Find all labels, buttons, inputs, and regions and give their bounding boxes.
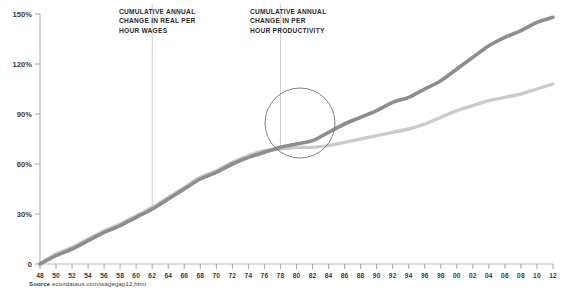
source-value: econdataus.com/wagegap12.html <box>52 281 146 287</box>
x-axis-tick-label: 64 <box>164 272 172 279</box>
y-axis: 030%60%90%120%150% <box>12 10 40 269</box>
x-axis: 4850525456586062646668707274767880828486… <box>36 264 557 279</box>
x-axis-tick-label: 60 <box>132 272 140 279</box>
x-axis-tick-label: 02 <box>469 272 477 279</box>
x-axis-tick-label: 62 <box>148 272 156 279</box>
x-axis-tick-label: 88 <box>357 272 365 279</box>
x-axis-tick-label: 86 <box>341 272 349 279</box>
x-axis-tick-label: 96 <box>421 272 429 279</box>
chart-series-lines <box>40 17 553 264</box>
x-axis-tick-label: 08 <box>517 272 525 279</box>
x-axis-tick-label: 90 <box>373 272 381 279</box>
y-axis-tick-label: 90% <box>17 110 33 119</box>
x-axis-tick-label: 50 <box>52 272 60 279</box>
x-axis-tick-label: 66 <box>180 272 188 279</box>
y-axis-tick-label: 120% <box>12 60 32 69</box>
x-axis-tick-label: 70 <box>212 272 220 279</box>
x-axis-tick-label: 58 <box>116 272 124 279</box>
x-axis-tick-label: 84 <box>325 272 333 279</box>
y-axis-tick-label: 150% <box>12 10 32 19</box>
wage-gap-chart: 030%60%90%120%150% 485052545658606264666… <box>0 0 565 297</box>
x-axis-tick-label: 72 <box>229 272 237 279</box>
series-line-wages <box>40 84 553 264</box>
x-axis-tick-label: 12 <box>549 272 557 279</box>
x-axis-tick-label: 68 <box>196 272 204 279</box>
x-axis-tick-label: 78 <box>277 272 285 279</box>
x-axis-tick-label: 92 <box>389 272 397 279</box>
x-axis-tick-label: 04 <box>485 272 493 279</box>
x-axis-tick-label: 56 <box>100 272 108 279</box>
x-axis-tick-label: 06 <box>501 272 509 279</box>
x-axis-tick-label: 80 <box>293 272 301 279</box>
x-axis-tick-label: 76 <box>261 272 269 279</box>
x-axis-tick-label: 98 <box>437 272 445 279</box>
chart-plot-area: 030%60%90%120%150% 485052545658606264666… <box>0 0 565 297</box>
y-axis-tick-label: 30% <box>17 210 33 219</box>
x-axis-tick-label: 10 <box>533 272 541 279</box>
x-axis-tick-label: 48 <box>36 272 44 279</box>
y-axis-tick-label: 60% <box>17 160 33 169</box>
source-label: Source <box>29 281 50 287</box>
series-line-productivity <box>40 17 553 264</box>
x-axis-tick-label: 94 <box>405 272 413 279</box>
x-axis-tick-label: 52 <box>68 272 76 279</box>
y-axis-tick-label: 0 <box>28 260 32 269</box>
x-axis-tick-label: 82 <box>309 272 317 279</box>
x-axis-tick-label: 54 <box>84 272 92 279</box>
annotation-wages-label: Cumulative annual change in real per hou… <box>119 7 224 35</box>
x-axis-tick-label: 74 <box>245 272 253 279</box>
x-axis-tick-label: 00 <box>453 272 461 279</box>
source-note: Source econdataus.com/wagegap12.html <box>29 281 146 287</box>
annotation-productivity-label: Cumulative annual change in per hour pro… <box>250 7 350 35</box>
